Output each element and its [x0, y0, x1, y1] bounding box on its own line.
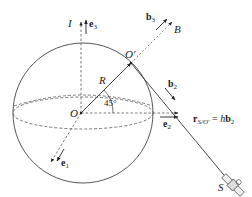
- b3-label-sub: 3: [152, 16, 156, 24]
- angle-label: 45°: [104, 98, 117, 108]
- e1-label: e1: [61, 157, 69, 170]
- origin-label: O: [70, 107, 78, 119]
- equatorial-plane-curve: [14, 95, 153, 106]
- satellite-icon: [221, 170, 249, 197]
- b3-label: b3: [146, 11, 156, 24]
- origin-prime-label: O′: [125, 48, 136, 60]
- spacecraft-label: S: [218, 181, 224, 193]
- inertial-frame-label: I: [67, 17, 73, 29]
- body-frame-label: B: [174, 23, 181, 35]
- inertial-axis-1: [51, 113, 81, 162]
- b2-label-sub: 2: [174, 83, 178, 91]
- sphere-frame-diagram: I e3 e1 e2 B b3 b2 O O′ R 45° S rS/O′ = …: [0, 0, 252, 197]
- e2-label: e2: [163, 118, 171, 131]
- position-vector-subscript: S/O′: [197, 118, 210, 126]
- origin-prime-point: [130, 62, 133, 65]
- body-axis-3: [131, 22, 172, 63]
- e3-label-sub: 3: [93, 23, 97, 31]
- origin-point: [80, 112, 83, 115]
- equation-b-sub: 2: [231, 118, 235, 126]
- b2-label: b2: [168, 78, 178, 91]
- position-vector-equation: rS/O′ = hb2: [193, 113, 235, 126]
- e1-label-sub: 1: [65, 162, 69, 170]
- radius-label: R: [98, 74, 106, 86]
- e2-label-sub: 2: [167, 123, 171, 131]
- e3-label: e3: [89, 18, 97, 31]
- equation-equals: =: [209, 113, 220, 124]
